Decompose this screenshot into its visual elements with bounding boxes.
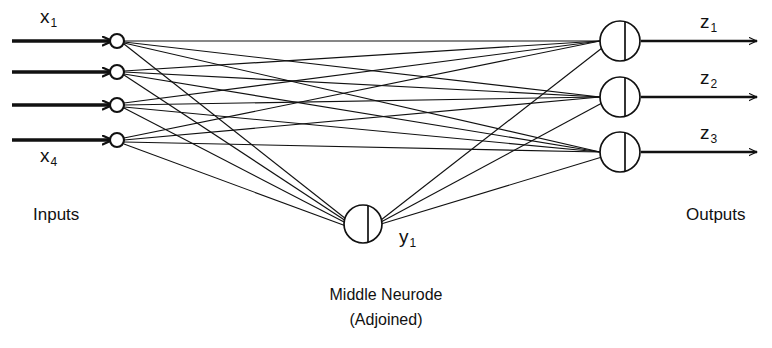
edge-y1-z3 [381, 157, 602, 224]
output-node-2-circle[interactable] [600, 77, 640, 117]
output-node-2[interactable] [600, 77, 640, 117]
edge-y1-z2 [381, 103, 602, 222]
output-label-z3-sub: 3 [711, 132, 718, 146]
output-label-z3: z3 [700, 123, 716, 142]
edge-x1-z3 [124, 43, 600, 152]
caption-line-1: Middle Neurode [0, 287, 772, 303]
edge-x2-y1 [124, 75, 346, 221]
edge-x2-z3 [124, 74, 600, 152]
output-label-z2-sub: 2 [711, 77, 718, 91]
neural-network-diagram: x1 x4 Inputs Outputs y1 z1 z2 z3 Middle … [0, 0, 772, 348]
output-label-z1-sub: 1 [711, 21, 718, 35]
input-node-1[interactable] [110, 34, 124, 48]
middle-neurode-node[interactable] [344, 205, 382, 243]
input-label-x4: x4 [40, 146, 56, 165]
output-label-z1: z1 [700, 12, 716, 31]
inputs-section-label: Inputs [33, 206, 79, 223]
output-node-1[interactable] [600, 21, 640, 61]
input-label-x4-base: x [40, 145, 50, 166]
middle-neurode-label-base: y [399, 226, 409, 247]
input-arrows-group [12, 41, 112, 140]
input-node-2[interactable] [110, 65, 124, 79]
output-label-z1-base: z [700, 11, 710, 32]
output-label-z3-base: z [700, 122, 710, 143]
output-node-3[interactable] [600, 132, 640, 172]
output-node-3-circle[interactable] [600, 132, 640, 172]
output-nodes-group [600, 21, 640, 172]
input-label-x1: x1 [40, 7, 56, 26]
edge-x4-z3 [124, 142, 600, 152]
middle-neurode-circle[interactable] [344, 205, 382, 243]
input-node-3[interactable] [110, 98, 124, 112]
output-label-z2-base: z [700, 67, 710, 88]
caption-line-2: (Adjoined) [0, 312, 772, 328]
input-nodes-group [110, 34, 124, 147]
middle-to-output-edges [381, 48, 602, 224]
output-arrows-group [641, 41, 757, 152]
input-label-x1-base: x [40, 6, 50, 27]
connection-lines-group [124, 41, 602, 226]
output-node-1-circle[interactable] [600, 21, 640, 61]
middle-neurode-label-y1: y1 [399, 227, 415, 246]
input-label-x1-sub: 1 [51, 16, 58, 30]
middle-neurode-label-sub: 1 [410, 236, 417, 250]
input-node-4[interactable] [110, 133, 124, 147]
output-label-z2: z2 [700, 68, 716, 87]
input-to-middle-edges [124, 44, 346, 226]
input-to-output-edges [124, 41, 600, 152]
edge-x4-y1 [124, 144, 346, 226]
input-label-x4-sub: 4 [51, 155, 58, 169]
outputs-section-label: Outputs [686, 206, 746, 223]
